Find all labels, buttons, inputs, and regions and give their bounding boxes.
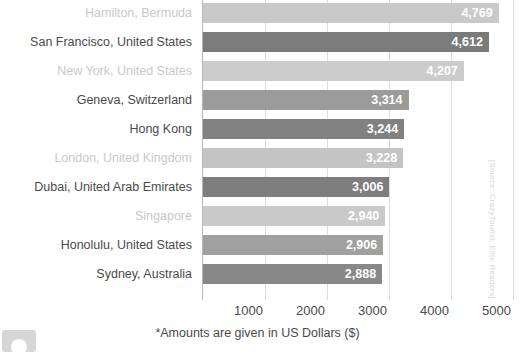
bar: 2,906 (203, 235, 383, 255)
chart-row: Dubai, United Arab Emirates 3,006 (0, 177, 525, 197)
chart-row: Singapore 2,940 (0, 206, 525, 226)
bar-value-label: 4,207 (427, 61, 458, 81)
chart-row: Sydney, Australia 2,888 (0, 264, 525, 284)
bar-value-label: 2,888 (345, 264, 376, 284)
bar-value-label: 2,940 (348, 206, 379, 226)
category-label: Geneva, Switzerland (0, 90, 192, 110)
bar: 2,940 (203, 206, 385, 226)
chart-row: San Francisco, United States 4,612 (0, 32, 525, 52)
bar-value-label: 2,906 (346, 235, 377, 255)
bar-value-label: 4,612 (452, 32, 483, 52)
x-axis-tick-label: 3000 (327, 303, 387, 318)
bar-value-label: 3,244 (367, 119, 398, 139)
x-axis-tick-label: 5000 (451, 303, 511, 318)
bar: 4,207 (203, 61, 464, 81)
x-axis-tick-label: 2000 (265, 303, 325, 318)
bar-value-label: 4,769 (461, 3, 492, 23)
bar-value-label: 3,228 (366, 148, 397, 168)
bar-value-label: 3,006 (352, 177, 383, 197)
category-label: London, United Kingdom (0, 148, 192, 168)
chart-row: Geneva, Switzerland 3,314 (0, 90, 525, 110)
category-label: Sydney, Australia (0, 264, 192, 284)
bar: 4,769 (203, 3, 499, 23)
category-label: San Francisco, United States (0, 32, 192, 52)
category-label: Hamilton, Bermuda (0, 3, 192, 23)
chart-row: Hong Kong 3,244 (0, 119, 525, 139)
chart-row: Hamilton, Bermuda 4,769 (0, 3, 525, 23)
bar: 3,244 (203, 119, 404, 139)
chart-row: New York, United States 4,207 (0, 61, 525, 81)
category-label: Dubai, United Arab Emirates (0, 177, 192, 197)
corner-badge-icon (2, 330, 36, 352)
source-note: [Source: CrazyTourist, Elite Readers] (488, 160, 497, 320)
bar-value-label: 3,314 (371, 90, 402, 110)
chart-row: Honolulu, United States 2,906 (0, 235, 525, 255)
category-label: Singapore (0, 206, 192, 226)
chart-footnote: *Amounts are given in US Dollars ($) (0, 326, 515, 340)
bar: 4,612 (203, 32, 489, 52)
bar: 2,888 (203, 264, 382, 284)
category-label: Hong Kong (0, 119, 192, 139)
category-label: New York, United States (0, 61, 192, 81)
x-axis-tick-label: 1000 (203, 303, 263, 318)
bar: 3,006 (203, 177, 389, 197)
bar: 3,314 (203, 90, 409, 110)
x-axis-tick-label: 4000 (389, 303, 449, 318)
chart-row: London, United Kingdom 3,228 (0, 148, 525, 168)
category-label: Honolulu, United States (0, 235, 192, 255)
bar: 3,228 (203, 148, 403, 168)
